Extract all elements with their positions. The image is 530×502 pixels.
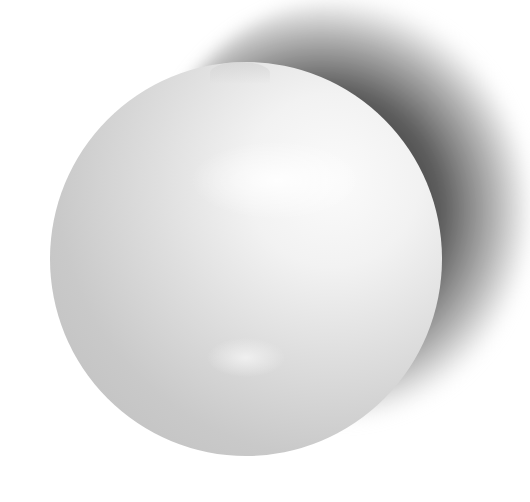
white-sphere [50, 62, 442, 456]
sphere-top-edge [210, 62, 270, 84]
